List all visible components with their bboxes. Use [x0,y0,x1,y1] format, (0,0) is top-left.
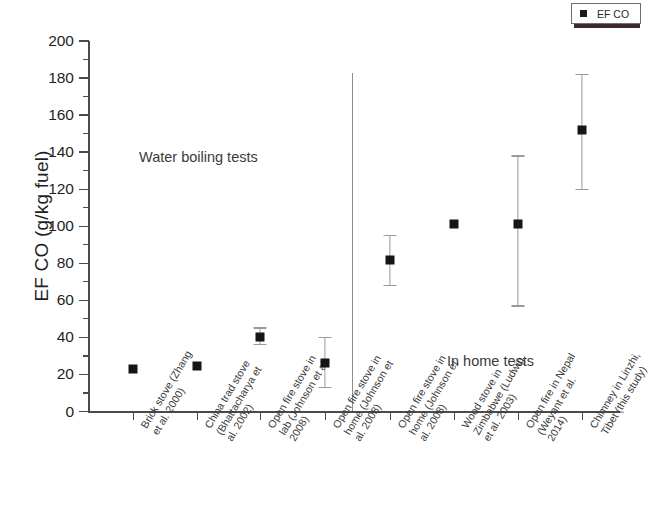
error-bar-cap [384,235,397,236]
y-tick-label: 160 [12,107,74,123]
y-tick-minor [83,281,89,282]
y-tick-label: 140 [12,144,74,160]
data-point [321,359,330,368]
error-bar-cap [512,305,525,306]
x-tick [260,412,261,420]
y-tick-major [79,40,89,41]
error-bar [517,156,518,306]
error-bar-cap [319,337,332,338]
x-category-label: China trad stove(Bhattacharya etal. 2002… [202,357,274,443]
data-point [386,255,395,264]
data-point [514,220,523,229]
legend: EF CO [571,3,641,24]
x-category-label: Open fire stove inlab (Johnson et al.200… [265,350,342,444]
y-tick-label: 20 [12,366,74,382]
y-tick-minor [83,96,89,97]
y-tick-label: 120 [12,181,74,197]
x-tick [133,412,134,420]
error-bar-cap [254,327,267,328]
x-tick [197,412,198,420]
y-tick-label: 200 [12,33,74,49]
group-divider [352,73,353,411]
x-tick [325,412,326,420]
y-tick-minor [83,355,89,356]
y-tick-major [79,189,89,190]
data-point [192,362,201,371]
y-tick-major [79,77,89,78]
y-tick-label: 80 [12,255,74,271]
error-bar-cap [512,155,525,156]
error-bar-cap [576,189,589,190]
data-point [256,333,265,342]
y-tick-major [79,374,89,375]
y-tick-label: 0 [12,404,74,420]
data-point [450,220,459,229]
x-category-label: Open fire stove inhome (Johnson etal. 20… [395,351,471,443]
y-tick-label: 40 [12,329,74,345]
y-tick-major [79,226,89,227]
legend-label: EF CO [597,8,629,20]
x-tick [582,412,583,420]
y-tick-minor [83,207,89,208]
y-tick-major [79,300,89,301]
y-tick-major [79,411,89,412]
legend-marker-icon [580,10,587,17]
y-tick-label: 60 [12,292,74,308]
y-tick-minor [83,133,89,134]
error-bar-cap [576,74,589,75]
y-tick-major [79,114,89,115]
y-tick-label: 100 [12,218,74,234]
x-category-label: Open fire stove inhome (Johnson etal. 20… [330,351,406,443]
data-point [578,125,587,134]
data-point [129,364,138,373]
y-tick-major [79,337,89,338]
y-tick-minor [83,59,89,60]
legend-shadow [574,24,640,28]
annotation-water-boiling-tests: Water boiling tests [139,149,258,165]
y-tick-major [79,263,89,264]
y-tick-minor [83,170,89,171]
y-tick-minor [83,392,89,393]
x-tick [390,412,391,420]
error-bar-cap [319,387,332,388]
y-tick-minor [83,244,89,245]
y-tick-major [79,151,89,152]
error-bar-cap [384,285,397,286]
error-bar-cap [254,344,267,345]
x-category-label: Chimney in Linzhi,Tibet (this study) [587,350,652,437]
y-tick-label: 180 [12,70,74,86]
x-tick [518,412,519,420]
x-tick [454,412,455,420]
y-tick-minor [83,318,89,319]
